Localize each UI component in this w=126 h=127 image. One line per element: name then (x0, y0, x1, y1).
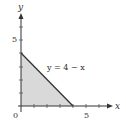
x-axis-label: x (115, 101, 120, 111)
y-axis-label: y (17, 2, 24, 12)
y-tick-label-5: 5 (12, 35, 17, 44)
origin-label: 0 (13, 111, 18, 120)
region-diagram: y x 0 5 5 y = 4 − x (0, 0, 126, 127)
equation-label: y = 4 − x (46, 63, 85, 72)
x-axis-arrow-icon (107, 104, 113, 109)
x-tick-label-5: 5 (84, 111, 89, 120)
y-axis-arrow-icon (19, 13, 24, 19)
